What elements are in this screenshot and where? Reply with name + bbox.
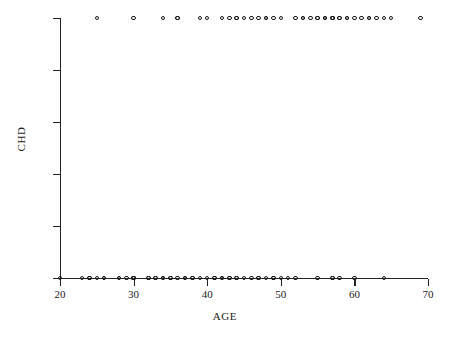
data-point <box>124 276 129 281</box>
data-point <box>161 16 166 21</box>
data-point <box>220 16 225 21</box>
data-point <box>315 16 320 21</box>
data-point <box>374 16 379 21</box>
data-point <box>234 276 239 281</box>
x-axis-tick-label: 50 <box>261 289 301 300</box>
data-point <box>249 16 254 21</box>
data-point <box>58 276 63 281</box>
y-axis-tick-mark <box>53 18 60 19</box>
data-point <box>264 276 269 281</box>
data-point <box>205 276 210 281</box>
data-point <box>131 16 136 21</box>
x-axis-tick-mark <box>428 279 429 286</box>
data-point <box>220 276 225 281</box>
x-axis-tick-mark <box>281 279 282 286</box>
data-point <box>175 16 180 21</box>
data-point <box>198 276 203 281</box>
data-point <box>337 276 342 281</box>
data-point <box>249 276 254 281</box>
data-point <box>95 276 100 281</box>
x-axis-tick-label: 20 <box>40 289 80 300</box>
data-point <box>315 276 320 281</box>
y-axis-tick-mark <box>53 226 60 227</box>
data-point <box>286 276 291 281</box>
data-point <box>242 16 247 21</box>
data-point <box>256 276 261 281</box>
data-point <box>389 16 394 21</box>
data-point <box>256 16 261 21</box>
x-axis-tick-mark <box>354 279 355 286</box>
data-point <box>359 16 364 21</box>
data-point <box>146 276 151 281</box>
data-point <box>205 16 210 21</box>
plot-data-area <box>60 18 428 278</box>
data-point <box>131 276 136 281</box>
data-point <box>337 16 342 21</box>
x-axis-tick-label: 70 <box>408 289 448 300</box>
y-axis-title: CHD <box>15 109 27 169</box>
data-point <box>227 276 232 281</box>
data-point <box>227 16 232 21</box>
data-point <box>80 276 85 281</box>
data-point <box>367 16 372 21</box>
data-point <box>330 16 335 21</box>
data-point <box>175 276 180 281</box>
y-axis-tick-mark <box>53 174 60 175</box>
y-axis-tick-mark <box>53 122 60 123</box>
scatter-plot-figure: 0.2.4.6.81 203040506070 CHD AGE <box>0 0 450 343</box>
data-point <box>352 276 357 281</box>
data-point <box>279 16 284 21</box>
data-point <box>301 16 306 21</box>
data-point <box>352 16 357 21</box>
data-point <box>242 276 247 281</box>
x-axis-tick-label: 40 <box>187 289 227 300</box>
data-point <box>382 16 387 21</box>
data-point <box>212 276 217 281</box>
data-point <box>293 276 298 281</box>
data-point <box>382 276 387 281</box>
data-point <box>418 16 423 21</box>
data-point <box>308 16 313 21</box>
data-point <box>95 16 100 21</box>
data-point <box>117 276 122 281</box>
y-axis-tick-mark <box>53 70 60 71</box>
data-point <box>190 276 195 281</box>
data-point <box>271 276 276 281</box>
data-point <box>345 16 350 21</box>
x-axis-title: AGE <box>0 310 450 322</box>
data-point <box>153 276 158 281</box>
data-point <box>330 276 335 281</box>
x-axis-tick-label: 30 <box>114 289 154 300</box>
x-axis-tick-mark <box>134 279 135 286</box>
x-axis-tick-mark <box>207 279 208 286</box>
x-axis-tick-mark <box>60 279 61 286</box>
data-point <box>234 16 239 21</box>
data-point <box>279 276 284 281</box>
x-axis-tick-label: 60 <box>334 289 374 300</box>
data-point <box>293 16 298 21</box>
data-point <box>183 276 188 281</box>
data-point <box>271 16 276 21</box>
data-point <box>198 16 203 21</box>
data-point <box>87 276 92 281</box>
data-point <box>161 276 166 281</box>
data-point <box>102 276 107 281</box>
data-point <box>323 16 328 21</box>
data-point <box>264 16 269 21</box>
data-point <box>168 276 173 281</box>
